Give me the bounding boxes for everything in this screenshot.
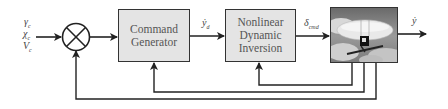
block-label-line: Command [130,23,178,36]
block-label-line: Nonlinear [238,16,284,29]
input-velocity-label: Vc [23,41,32,55]
control-block-diagram: γc χc Vc Command Generator ẏd Nonlinear … [0,0,448,109]
delta-cmd-signal-label: δcmd [304,18,319,32]
airship-aircraft-image [331,8,398,63]
command-generator-block: Command Generator [118,9,190,62]
block-label-line: Inversion [238,42,284,55]
yd-dot-signal-label: ẏd [202,18,209,32]
block-label-line: Dynamic [238,29,284,42]
airship-plant-image [330,7,398,63]
block-label-line: Generator [130,36,178,49]
y-dot-output-label: ẏ [412,16,416,26]
nonlinear-dynamic-inversion-block: Nonlinear Dynamic Inversion [225,9,296,62]
